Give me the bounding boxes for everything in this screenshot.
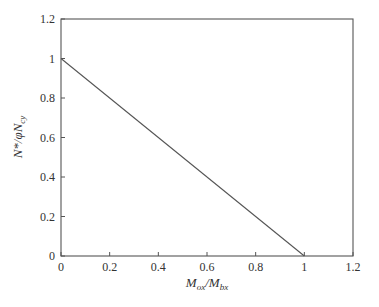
y-tick-label: 0.2 xyxy=(40,210,55,224)
x-axis-ticks: 00.20.40.60.811.2 xyxy=(58,252,361,274)
y-tick-label: 0.6 xyxy=(40,131,55,145)
chart: 00.20.40.60.811.2 00.20.40.60.811.2 Mox/… xyxy=(0,0,379,307)
y-tick-label: 0 xyxy=(49,249,55,263)
data-series xyxy=(61,59,304,257)
x-axis-label: Mox/Mbx xyxy=(185,275,228,292)
y-tick-label: 1 xyxy=(49,52,55,66)
plot-frame xyxy=(61,19,353,256)
x-tick-label: 1 xyxy=(301,260,307,274)
y-axis-label: N*/φNcy xyxy=(10,116,27,160)
y-tick-label: 1.2 xyxy=(40,12,55,26)
x-tick-label: 0 xyxy=(58,260,64,274)
series-line-interaction xyxy=(61,59,304,257)
x-tick-label: 0.2 xyxy=(102,260,117,274)
x-tick-label: 0.4 xyxy=(151,260,166,274)
x-tick-label: 1.2 xyxy=(346,260,361,274)
y-tick-label: 0.8 xyxy=(40,91,55,105)
y-tick-label: 0.4 xyxy=(40,170,55,184)
x-tick-label: 0.8 xyxy=(248,260,263,274)
x-tick-label: 0.6 xyxy=(200,260,215,274)
